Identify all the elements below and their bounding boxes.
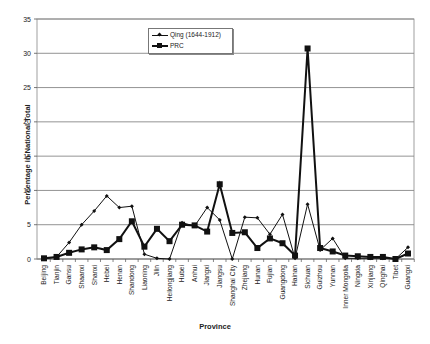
square-marker-icon bbox=[380, 254, 386, 260]
square-marker-icon bbox=[154, 226, 160, 232]
diamond-marker-icon bbox=[168, 257, 172, 261]
x-tick-label: Ningxia bbox=[354, 265, 362, 287]
square-marker-icon bbox=[179, 222, 185, 228]
square-marker-icon bbox=[392, 256, 398, 262]
x-tick-label: Guizhou bbox=[316, 265, 323, 290]
gridlines bbox=[37, 19, 414, 259]
x-tick-label: Shandong bbox=[128, 265, 136, 295]
square-marker-icon bbox=[292, 253, 298, 259]
plot-area bbox=[37, 19, 414, 259]
diamond-marker-icon bbox=[130, 204, 134, 208]
square-marker-icon bbox=[66, 250, 72, 256]
diamond-marker-icon bbox=[230, 257, 234, 261]
legend: Qing (1644-1912) PRC bbox=[148, 28, 233, 54]
x-tick-label: Inner Mongolia bbox=[342, 265, 350, 309]
x-tick-label: Zhejiang bbox=[241, 265, 249, 291]
x-tick-label: Fujian bbox=[266, 265, 274, 283]
x-tick-label: Hebei bbox=[103, 264, 110, 282]
legend-label: PRC bbox=[170, 42, 184, 49]
x-tick-label: Henan bbox=[116, 265, 123, 285]
square-marker-icon bbox=[317, 245, 323, 251]
diamond-marker-icon bbox=[152, 31, 168, 39]
diamond-marker-icon bbox=[142, 252, 146, 256]
square-marker-icon bbox=[91, 244, 97, 250]
x-tick-label: Shanghai City bbox=[229, 264, 237, 306]
x-tick-label: Hunan bbox=[254, 265, 261, 285]
x-tick-label: Sichuan bbox=[304, 265, 311, 289]
legend-item-qing: Qing (1644-1912) bbox=[149, 29, 232, 40]
x-tick-label: Shanxi bbox=[91, 264, 98, 285]
square-marker-icon bbox=[141, 244, 147, 250]
square-marker-icon bbox=[342, 253, 348, 259]
square-marker-icon bbox=[104, 247, 110, 253]
diamond-marker-icon bbox=[243, 215, 247, 219]
x-tick-label: Guangxi bbox=[404, 264, 412, 289]
series-lines bbox=[41, 45, 411, 262]
square-marker-icon bbox=[405, 251, 411, 257]
square-marker-icon bbox=[129, 218, 135, 224]
x-tick-label: Hubei bbox=[178, 264, 185, 282]
square-marker-icon bbox=[167, 238, 173, 244]
y-tick-label: 0 bbox=[27, 256, 31, 263]
legend-item-prc: PRC bbox=[149, 40, 232, 51]
square-marker-icon bbox=[267, 235, 273, 241]
square-marker-icon bbox=[152, 42, 168, 50]
x-axis-label: Province bbox=[0, 322, 430, 331]
y-tick-label: 30 bbox=[23, 50, 31, 57]
square-marker-icon bbox=[54, 254, 60, 260]
x-tick-label: Jilin bbox=[153, 265, 160, 277]
x-tick-label: Tianjin bbox=[53, 265, 61, 285]
y-tick-label: 35 bbox=[23, 16, 31, 23]
square-marker-icon bbox=[204, 229, 210, 235]
square-marker-icon bbox=[217, 181, 223, 187]
diamond-marker-icon bbox=[306, 202, 310, 206]
x-tick-label: Tibet bbox=[392, 265, 399, 280]
x-tick-label: Anhui bbox=[191, 264, 198, 281]
square-marker-icon bbox=[116, 236, 122, 242]
square-marker-icon bbox=[41, 255, 47, 261]
square-marker-icon bbox=[279, 240, 285, 246]
square-marker-icon bbox=[192, 222, 198, 228]
square-marker-icon bbox=[355, 253, 361, 259]
x-tick-label: Yunnan bbox=[329, 265, 336, 288]
legend-label: Qing (1644-1912) bbox=[170, 31, 221, 38]
x-tick-label: Guangdong bbox=[279, 265, 287, 300]
x-tick-label: Jiangsu bbox=[216, 265, 224, 288]
x-tick-label: Jiangxi bbox=[203, 264, 211, 285]
x-tick-label: Qinghai bbox=[379, 264, 387, 287]
x-tick-label: Liaoning bbox=[141, 265, 149, 290]
diamond-marker-icon bbox=[155, 256, 159, 260]
x-tick-label: Shaanxi bbox=[78, 264, 85, 288]
x-tick-label: Gansu bbox=[65, 265, 72, 285]
square-marker-icon bbox=[330, 248, 336, 254]
x-tick-label: Hainan bbox=[291, 265, 298, 286]
series-line bbox=[44, 48, 408, 259]
square-marker-icon bbox=[367, 254, 373, 260]
x-axis-ticks: BeijingTianjinGansuShaanxiShanxiHebeiHen… bbox=[40, 259, 414, 309]
y-axis-label: Percentage in National Total bbox=[23, 80, 32, 230]
square-marker-icon bbox=[79, 246, 85, 252]
square-marker-icon bbox=[305, 45, 311, 51]
x-tick-label: Heilongjiang bbox=[166, 265, 174, 302]
square-marker-icon bbox=[242, 229, 248, 235]
x-tick-label: Beijing bbox=[40, 265, 48, 285]
square-marker-icon bbox=[229, 230, 235, 236]
square-marker-icon bbox=[254, 245, 260, 251]
x-tick-label: Xinjiang bbox=[367, 265, 375, 289]
